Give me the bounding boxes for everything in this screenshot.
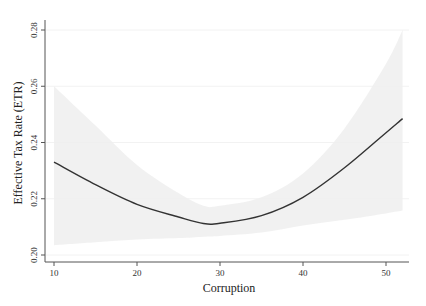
y-axis-title: Effective Tax Rate (ETR) <box>11 81 25 204</box>
x-tick-label: 30 <box>216 268 226 278</box>
x-tick-label: 20 <box>133 268 143 278</box>
x-axis-title: Corruption <box>203 281 256 295</box>
x-tick-label: 40 <box>299 268 309 278</box>
y-tick-label: 0.20 <box>29 247 39 263</box>
chart: 0.200.220.240.260.281020304050 Corruptio… <box>0 0 426 306</box>
confidence-band <box>54 30 403 245</box>
y-tick-label: 0.28 <box>29 22 39 38</box>
x-tick-label: 50 <box>382 268 392 278</box>
y-tick-label: 0.24 <box>29 134 39 150</box>
x-tick-label: 10 <box>50 268 60 278</box>
y-tick-label: 0.22 <box>29 191 39 207</box>
y-tick-label: 0.26 <box>29 78 39 94</box>
